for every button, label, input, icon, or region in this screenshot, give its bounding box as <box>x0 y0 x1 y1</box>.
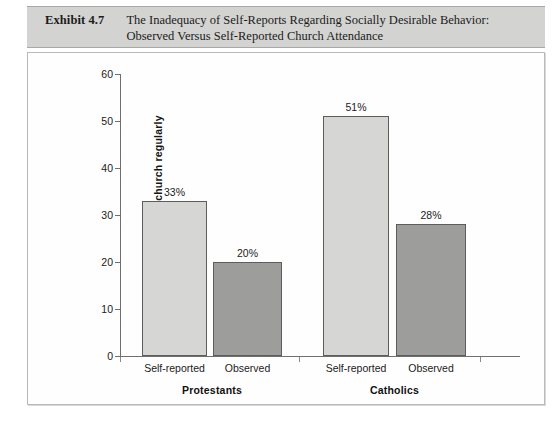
y-axis-tick-label: 10 <box>101 303 113 315</box>
x-axis-group-label-protestants: Protestants <box>182 384 242 396</box>
y-axis-tick <box>115 121 120 122</box>
y-axis-tick <box>115 309 120 310</box>
y-axis-tick <box>115 262 120 263</box>
chart-frame: Percentage attending church regularly 01… <box>27 52 545 405</box>
x-axis-line <box>120 356 520 357</box>
y-axis-tick-label: 20 <box>101 256 113 268</box>
bar-protestants-self-reported: 33% <box>142 201 207 356</box>
exhibit-header-band: Exhibit 4.7 The Inadequacy of Self-Repor… <box>27 6 545 48</box>
x-axis-group-tick <box>120 357 121 362</box>
y-axis-tick-label: 60 <box>101 68 113 80</box>
x-axis-group-label-catholics: Catholics <box>370 384 419 396</box>
x-axis-category-label: Observed <box>225 362 271 374</box>
x-axis-category-label: Observed <box>408 362 454 374</box>
bar-value-label: 20% <box>237 247 258 259</box>
bar-catholics-self-reported: 51% <box>323 116 389 356</box>
bar-value-label: 33% <box>164 186 185 198</box>
y-axis-line <box>120 74 121 357</box>
bar-protestants-observed: 20% <box>213 262 282 356</box>
exhibit-title-line-1: The Inadequacy of Self-Reports Regarding… <box>126 12 489 28</box>
y-axis-tick-label: 30 <box>101 209 113 221</box>
exhibit-number-label: Exhibit 4.7 <box>27 7 104 28</box>
y-axis-tick <box>115 215 120 216</box>
y-axis-tick-label: 50 <box>101 115 113 127</box>
y-axis-tick <box>115 168 120 169</box>
bar-chart-plot-area: Percentage attending church regularly 01… <box>120 74 520 356</box>
bar-value-label: 28% <box>420 209 441 221</box>
y-axis-tick-label: 0 <box>107 350 113 362</box>
x-axis-category-label: Self-reported <box>326 362 387 374</box>
x-axis-group-tick <box>480 357 481 362</box>
exhibit-title-line-2: Observed Versus Self-Reported Church Att… <box>126 28 489 44</box>
exhibit-title: The Inadequacy of Self-Reports Regarding… <box>104 7 495 44</box>
y-axis-tick-label: 40 <box>101 162 113 174</box>
bar-value-label: 51% <box>345 101 366 113</box>
x-axis-group-tick <box>299 357 300 362</box>
bar-catholics-observed: 28% <box>396 224 466 356</box>
y-axis-tick <box>115 74 120 75</box>
x-axis-category-label: Self-reported <box>144 362 205 374</box>
